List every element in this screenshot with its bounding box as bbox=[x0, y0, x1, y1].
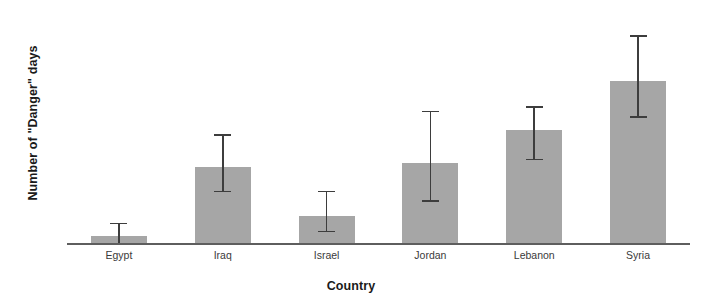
error-bar-cap-lower bbox=[526, 159, 543, 161]
bar-chart: Number of "Danger" days 010203040 EgyptI… bbox=[0, 0, 702, 306]
error-bar-line bbox=[533, 106, 535, 159]
error-bar-cap-upper bbox=[214, 134, 231, 136]
x-axis-tick-label: Iraq bbox=[195, 249, 251, 261]
x-axis-tick-label: Lebanon bbox=[506, 249, 562, 261]
error-bar-line bbox=[430, 111, 432, 200]
error-bar-cap-lower bbox=[318, 231, 335, 233]
error-bar-cap-upper bbox=[526, 106, 543, 108]
error-bar-cap-lower bbox=[422, 200, 439, 202]
x-axis-tick-label: Israel bbox=[299, 249, 355, 261]
x-axis-tick-label: Syria bbox=[610, 249, 666, 261]
error-bar-line bbox=[222, 134, 224, 191]
error-bar-cap-lower bbox=[214, 191, 231, 193]
bar-group: Jordan bbox=[402, 0, 458, 245]
error-bar-line bbox=[118, 223, 120, 243]
error-bar-line bbox=[326, 191, 328, 231]
error-bar-cap-upper bbox=[110, 223, 127, 225]
plot-area: 010203040 EgyptIraqIsraelJordanLebanonSy… bbox=[67, 0, 690, 245]
x-axis-tick-label: Jordan bbox=[402, 249, 458, 261]
x-axis-tick-label: Egypt bbox=[91, 249, 147, 261]
bar-group: Iraq bbox=[195, 0, 251, 245]
bar-group: Egypt bbox=[91, 0, 147, 245]
y-axis-title: Number of "Danger" days bbox=[26, 13, 40, 233]
error-bar-line bbox=[637, 35, 639, 116]
bar-group: Syria bbox=[610, 0, 666, 245]
error-bar-cap-lower bbox=[630, 116, 647, 118]
x-axis-line bbox=[67, 243, 690, 245]
error-bar-cap-upper bbox=[318, 191, 335, 193]
error-bar-cap-upper bbox=[422, 111, 439, 113]
bar-group: Israel bbox=[299, 0, 355, 245]
x-axis-title: Country bbox=[0, 279, 702, 293]
error-bar-cap-upper bbox=[630, 35, 647, 37]
bar-group: Lebanon bbox=[506, 0, 562, 245]
